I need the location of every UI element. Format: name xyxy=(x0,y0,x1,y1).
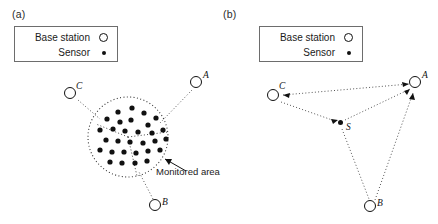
base-station-c[interactable] xyxy=(64,87,76,99)
base-station-b-b[interactable] xyxy=(364,200,376,212)
monitored-area-annotation: Monitored area xyxy=(156,166,220,177)
base-station-b-label: B xyxy=(162,197,168,207)
link-c-a xyxy=(283,84,409,95)
panel-b-graphics xyxy=(219,0,438,224)
link-c-area xyxy=(78,100,100,119)
link-b-a xyxy=(375,93,413,200)
base-station-c-label: C xyxy=(76,81,82,91)
base-station-a-label-b: A xyxy=(422,70,428,80)
base-station-a-b[interactable] xyxy=(409,76,421,88)
base-station-c-label-b: C xyxy=(279,81,285,91)
panel-a: (a) Base station Sensor xyxy=(0,0,219,224)
link-b-area xyxy=(139,172,153,199)
base-station-b[interactable] xyxy=(149,199,161,211)
base-station-a[interactable] xyxy=(190,76,202,88)
panel-b: (b) Base station Sensor xyxy=(219,0,438,224)
link-s-a xyxy=(345,89,410,120)
base-station-b-label-b: B xyxy=(377,198,383,208)
panel-b-arrowheads xyxy=(283,82,415,124)
link-s-b xyxy=(342,129,369,199)
panel-a-links xyxy=(78,90,192,199)
base-station-a-label: A xyxy=(203,70,209,80)
sensor-node-s-label: S xyxy=(346,122,351,132)
panel-a-graphics xyxy=(0,0,219,224)
link-a-area xyxy=(160,90,192,123)
link-c-s xyxy=(281,102,335,121)
sensor-node-s[interactable] xyxy=(338,120,343,125)
panel-b-links xyxy=(281,84,413,200)
base-station-c-b[interactable] xyxy=(267,89,279,101)
